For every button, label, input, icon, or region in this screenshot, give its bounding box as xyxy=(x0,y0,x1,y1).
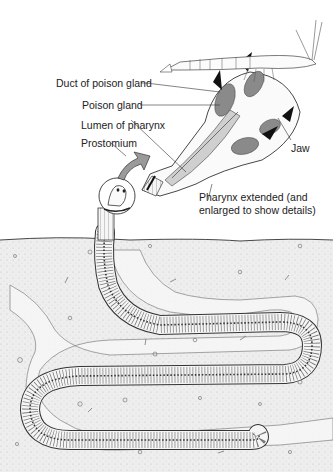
direction-arrow xyxy=(118,152,150,180)
pharynx-extended xyxy=(142,52,300,196)
label-jaw: Jaw xyxy=(291,142,310,154)
label-duct-of-poison-gland: Duct of poison gland xyxy=(56,77,152,89)
worm-head-emerging xyxy=(98,178,135,240)
jaw-upper-left xyxy=(213,70,222,90)
label-poison-gland: Poison gland xyxy=(82,99,143,111)
diagram: Duct of poison gland Poison gland Lumen … xyxy=(0,0,333,472)
shrimp-prey xyxy=(160,20,322,82)
label-pharynx-extended-line2: enlarged to show details) xyxy=(199,204,316,216)
label-pharynx-extended-line1: Pharynx extended (and xyxy=(199,191,308,203)
label-prostomium: Prostomium xyxy=(81,137,137,149)
label-lumen-of-pharynx: Lumen of pharynx xyxy=(81,119,165,131)
illustration xyxy=(0,0,333,472)
